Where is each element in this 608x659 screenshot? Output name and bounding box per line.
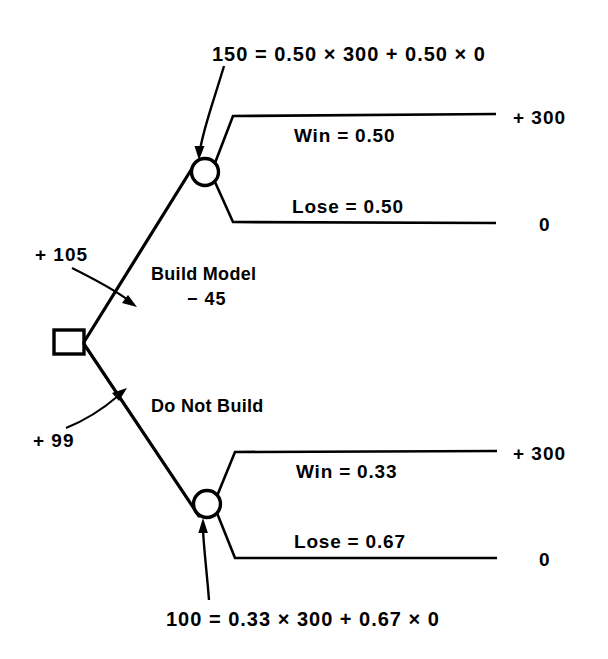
outcome-label-no-build-win: Win = 0.33 bbox=[296, 461, 397, 483]
branch-cost-build: − 45 bbox=[187, 289, 227, 310]
branch-label-build: Build Model bbox=[151, 264, 256, 285]
payoff-build-win: + 300 bbox=[513, 107, 566, 129]
outcome-label-build-win: Win = 0.50 bbox=[294, 125, 395, 147]
decision-node-square bbox=[54, 330, 84, 354]
ev-formula-no-build: 100 = 0.33 × 300 + 0.67 × 0 bbox=[166, 608, 440, 631]
net-value-build: + 105 bbox=[35, 244, 88, 266]
branch-build-line bbox=[84, 162, 196, 342]
tree-lines-svg bbox=[0, 0, 608, 659]
ev-build-arrow-line bbox=[200, 66, 224, 150]
payoff-build-lose: 0 bbox=[539, 214, 551, 236]
outcome-label-no-build-lose: Lose = 0.67 bbox=[294, 531, 406, 553]
ev-no-build-arrowhead bbox=[198, 518, 208, 533]
payoff-no-build-lose: 0 bbox=[539, 549, 551, 571]
ev-formula-build: 150 = 0.50 × 300 + 0.50 × 0 bbox=[212, 43, 486, 66]
branch-label-no-build: Do Not Build bbox=[151, 396, 264, 417]
decision-tree-figure: 150 = 0.50 × 300 + 0.50 × 0 100 = 0.33 ×… bbox=[0, 0, 608, 659]
payoff-no-build-win: + 300 bbox=[513, 443, 566, 465]
outcome-label-build-lose: Lose = 0.50 bbox=[292, 196, 404, 218]
ev-99-arrow-line bbox=[66, 396, 118, 428]
net-value-no-build: + 99 bbox=[33, 430, 75, 452]
ev-no-build-arrow-line bbox=[203, 530, 209, 600]
branch-no-build-line bbox=[84, 344, 199, 516]
